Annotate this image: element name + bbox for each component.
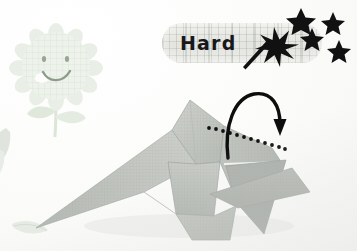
difficulty-badge-label: Hard xyxy=(180,31,237,55)
instruction-card: Hard xyxy=(0,0,357,251)
origami-diagram xyxy=(24,86,344,241)
curved-fold-arrow-icon xyxy=(212,86,294,164)
magic-wand-icon xyxy=(236,3,357,71)
